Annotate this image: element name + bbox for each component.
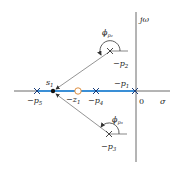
- angle-arc-phi-p2: [100, 41, 120, 55]
- label-s1: s1: [46, 78, 54, 88]
- label-p4: −p4: [88, 96, 104, 106]
- test-point-s1-dot-icon: [51, 89, 55, 93]
- s-plane-diagram: jω σ 0 −p1 −p2 −p3 −p4 −p5 −z1 s1 ϕp₂ ϕp…: [0, 0, 179, 169]
- zero-z1-circle-icon: [75, 88, 81, 94]
- label-z1: −z1: [66, 95, 80, 105]
- label-p1: −p1: [114, 79, 129, 89]
- label-p5: −p5: [27, 96, 43, 106]
- real-axis-label: σ: [160, 97, 166, 106]
- label-phi-p2: ϕp₂: [102, 28, 113, 39]
- origin-label: 0: [139, 97, 144, 106]
- label-p3: −p3: [101, 142, 117, 152]
- imag-axis-label: jω: [138, 15, 149, 24]
- label-p2: −p2: [113, 59, 129, 69]
- vector-p2-to-s1: [56, 52, 109, 89]
